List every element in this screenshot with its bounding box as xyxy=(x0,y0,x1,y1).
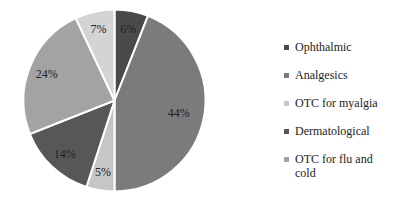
slice-percent-label: 24% xyxy=(36,67,58,81)
slice-percent-label: 5% xyxy=(95,165,111,179)
slice-percent-label: 7% xyxy=(91,22,107,36)
legend-marker-dermatological xyxy=(284,129,289,134)
slice-percent-label: 6% xyxy=(120,22,136,36)
pie-chart: 6%44%5%14%24%7% xyxy=(0,0,230,198)
legend-label: Analgesics xyxy=(295,68,348,82)
chart-legend: Ophthalmic Analgesics OTC for myalgia De… xyxy=(283,40,396,194)
legend-item-ophthalmic: Ophthalmic xyxy=(283,40,396,54)
legend-marker-ophthalmic xyxy=(284,45,289,50)
legend-item-analgesics: Analgesics xyxy=(283,68,396,82)
slice-percent-label: 14% xyxy=(54,147,76,161)
legend-item-otc-flu-cold: OTC for flu and cold xyxy=(283,152,375,180)
legend-marker-analgesics xyxy=(284,73,289,78)
legend-label: OTC for flu and cold xyxy=(295,152,373,180)
legend-marker-otc-myalgia xyxy=(284,101,289,106)
legend-item-dermatological: Dermatological xyxy=(283,124,396,138)
legend-label: OTC for myalgia xyxy=(295,96,378,110)
legend-label: Dermatological xyxy=(295,124,370,138)
slice-percent-label: 44% xyxy=(168,106,190,120)
legend-item-otc-myalgia: OTC for myalgia xyxy=(283,96,396,110)
legend-marker-otc-flu-cold xyxy=(284,157,289,162)
legend-label: Ophthalmic xyxy=(295,40,352,54)
